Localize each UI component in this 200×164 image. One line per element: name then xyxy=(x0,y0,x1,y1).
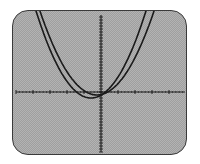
graph-plot xyxy=(13,11,187,155)
curves xyxy=(33,11,157,98)
axes xyxy=(16,15,185,152)
parabola-2-curve xyxy=(37,11,157,95)
calculator-screen xyxy=(12,10,187,155)
parabola-1-curve xyxy=(33,11,149,98)
